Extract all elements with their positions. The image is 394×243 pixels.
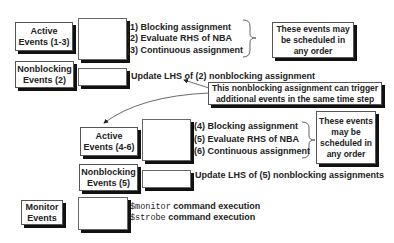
note-2-line2: may be xyxy=(317,127,375,138)
order-note-1: These events may be scheduled in any ord… xyxy=(272,22,354,58)
monitor-code: $monitor xyxy=(130,202,171,212)
item-blocking-1: (1) Blocking assignment xyxy=(127,22,231,33)
active-events-label-line1: Active xyxy=(16,26,72,37)
nba-5-label-line1: Nonblocking xyxy=(80,167,137,178)
active-2-label-line1: Active xyxy=(81,131,137,142)
trigger-callout: This nonblocking assignment can trigger … xyxy=(208,82,382,105)
item-evaluate-rhs-5: (5) Evaluate RHS of NBA xyxy=(194,134,299,145)
strobe-code: $strobe xyxy=(130,213,166,223)
note-1-line2: be scheduled in xyxy=(273,35,353,46)
nonblocking-events-box-2: Nonblocking Events (2) xyxy=(15,61,74,88)
active-queue-box-1 xyxy=(78,18,127,60)
nonblocking-events-box-5: Nonblocking Events (5) xyxy=(79,164,138,191)
note-1-line1: These events may xyxy=(273,24,353,35)
nba-2-label-line2: Events (2) xyxy=(16,75,73,86)
active-queue-box-2 xyxy=(142,119,191,161)
monitor-queue-box xyxy=(78,197,128,230)
active-events-box-2: Active Events (4-6) xyxy=(80,127,138,156)
note-2-line4: any order xyxy=(317,149,375,160)
active-events-label-line2: Events (1-3) xyxy=(16,37,72,48)
item-update-lhs-5: Update LHS of (5) nonblocking assignment… xyxy=(195,170,384,181)
nonblocking-queue-box-5 xyxy=(142,170,191,188)
note-2-line3: scheduled in xyxy=(317,138,375,149)
nba-2-label-line1: Nonblocking xyxy=(16,64,73,75)
note-1-line3: any order xyxy=(273,46,353,57)
callout-line2: additional events in the same time step xyxy=(209,94,381,105)
monitor-events-box: Monitor Events xyxy=(21,200,63,225)
item-blocking-4: (4) Blocking assignment xyxy=(194,121,298,132)
nonblocking-queue-box-2 xyxy=(78,68,127,86)
brace-group-1 xyxy=(243,20,256,57)
nba-5-label-line2: Events (5) xyxy=(80,178,137,189)
callout-line1: This nonblocking assignment can trigger xyxy=(209,83,381,94)
active-2-label-line2: Events (4-6) xyxy=(81,142,137,153)
monitor-text: command execution xyxy=(171,201,261,211)
monitor-label-line1: Monitor xyxy=(22,202,62,213)
active-events-box-1: Active Events (1-3) xyxy=(15,22,73,51)
item-continuous-3: (3) Continuous assignment xyxy=(127,45,243,56)
item-continuous-6: (6) Continuous assignment xyxy=(194,146,310,157)
strobe-text: command execution xyxy=(166,212,256,222)
note-2-line1: These events xyxy=(317,116,375,127)
item-evaluate-rhs-2: (2) Evaluate RHS of NBA xyxy=(127,33,232,44)
item-update-lhs-2: Update LHS of (2) nonblocking assignment xyxy=(131,71,315,82)
item-strobe-exec: $strobe command execution xyxy=(130,212,255,224)
order-note-2: These events may be scheduled in any ord… xyxy=(316,111,376,164)
monitor-label-line2: Events xyxy=(22,213,62,224)
